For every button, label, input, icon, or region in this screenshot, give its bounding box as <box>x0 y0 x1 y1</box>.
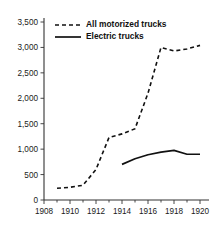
y-tick-label: 3,500 <box>18 18 39 27</box>
x-tick-label: 1912 <box>87 207 106 216</box>
series-line-electric-trucks <box>122 150 200 164</box>
x-tick-label: 1908 <box>35 207 54 216</box>
y-tick-label: 1,000 <box>18 145 39 154</box>
legend-label: All motorized trucks <box>86 19 167 29</box>
x-axis-tick-marks <box>44 200 200 204</box>
x-tick-label: 1910 <box>61 207 80 216</box>
y-tick-label: 2,000 <box>18 94 39 103</box>
y-tick-label: 1,500 <box>18 120 39 129</box>
x-tick-label: 1916 <box>139 207 158 216</box>
y-tick-label: 0 <box>33 196 38 205</box>
chart-legend: All motorized trucksElectric trucks <box>55 19 167 41</box>
x-tick-label: 1918 <box>165 207 184 216</box>
y-tick-label: 2,500 <box>18 69 39 78</box>
line-chart: 05001,0001,5002,0002,5003,0003,500 19081… <box>0 0 215 235</box>
y-axis-tick-labels: 05001,0001,5002,0002,5003,0003,500 <box>18 18 39 205</box>
x-axis-tick-labels: 1908191019121914191619181920 <box>35 207 210 216</box>
x-tick-label: 1920 <box>191 207 210 216</box>
legend-label: Electric trucks <box>86 31 144 41</box>
y-tick-label: 3,000 <box>18 43 39 52</box>
x-tick-label: 1914 <box>113 207 132 216</box>
y-tick-label: 500 <box>24 171 38 180</box>
series-line-all-motorized-trucks <box>57 45 200 188</box>
chart-container: 05001,0001,5002,0002,5003,0003,500 19081… <box>0 0 215 235</box>
